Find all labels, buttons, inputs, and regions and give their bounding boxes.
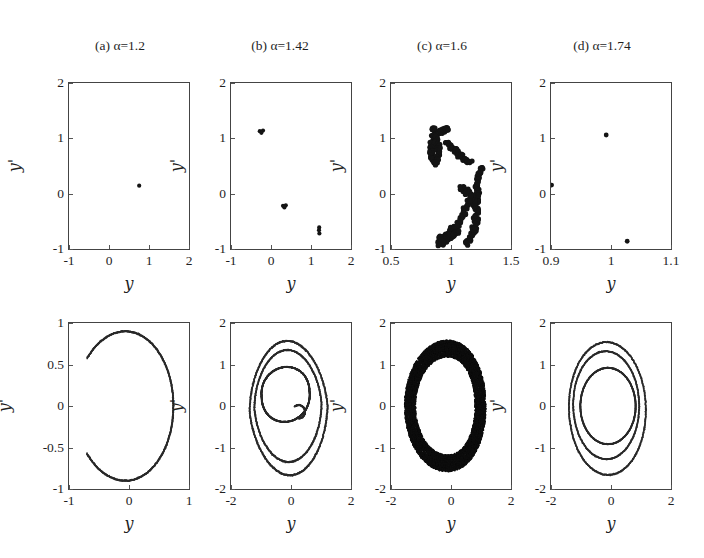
y-tick-label: -1 [506,441,546,455]
y-tick-label: 1 [186,358,226,372]
data-points-layer [551,83,671,249]
y-axis-label: y' [327,386,346,426]
x-tick-label: 1 [291,254,331,268]
y-tick [391,489,395,490]
plot-frame [550,82,672,250]
x-tick-label: 0 [109,494,149,508]
y-tick [391,323,395,324]
x-tick-label: 0 [89,254,129,268]
y-tick-label: 0 [506,399,546,413]
y-tick-label: 2 [186,76,226,90]
x-tick-label: 2 [651,494,691,508]
y-tick [69,194,73,195]
y-tick-label: -1 [346,242,386,256]
panel-title-b-text: (b) α=1.42 [251,38,308,53]
plot-panel-phase-d: -202-2-1012y'y [550,322,672,490]
x-axis-label: y [431,514,471,533]
y-tick [231,138,235,139]
x-tick-label: 1 [591,254,631,268]
x-tick-label: 0 [591,494,631,508]
y-tick-label: -1 [24,242,64,256]
y-tick [391,249,395,250]
x-tick-label: 0 [431,494,471,508]
y-tick [391,365,395,366]
x-tick [611,245,612,249]
y-tick [391,406,395,407]
y-tick [551,489,555,490]
x-axis-label: y [431,274,471,293]
y-tick [551,365,555,366]
y-tick [551,138,555,139]
x-tick [671,245,672,249]
y-tick [69,489,73,490]
plot-frame [550,322,672,490]
x-tick-label: 2 [169,254,209,268]
x-tick-label: 1 [431,254,471,268]
y-tick [391,83,395,84]
x-tick-label: 0.9 [531,254,571,268]
x-tick-label: 1 [129,254,169,268]
y-tick-label: 1 [506,358,546,372]
y-tick-label: 0 [24,187,64,201]
plot-panel-poincare-d: 0.911.1-1012y'y [550,82,672,250]
y-tick [69,365,73,366]
x-tick-label: 2 [491,494,531,508]
y-tick [231,249,235,250]
y-tick [551,323,555,324]
y-tick [231,365,235,366]
y-tick-label: 0 [346,399,386,413]
x-axis-label: y [271,514,311,533]
x-axis-label: y [271,274,311,293]
x-tick-label: -1 [211,254,251,268]
y-axis-label: y' [487,146,506,186]
y-tick-label: 0.5 [24,358,64,372]
y-tick [69,406,73,407]
y-tick [231,448,235,449]
y-tick-label: -1 [24,482,64,496]
y-tick-label: 1 [24,131,64,145]
y-tick [69,249,73,250]
y-axis-label: y' [167,386,186,426]
y-tick-label: 1 [186,131,226,145]
y-tick-label: 2 [24,76,64,90]
y-axis-label: y' [0,386,14,426]
y-tick-label: 1 [346,358,386,372]
x-tick [271,245,272,249]
panel-title-a-text: (a) α=1.2 [95,38,145,53]
x-tick [611,485,612,489]
y-tick-label: -1 [186,441,226,455]
x-tick-label: -2 [371,494,411,508]
x-axis-label: y [109,514,149,533]
y-tick [551,83,555,84]
x-axis-label: y [591,514,631,533]
x-tick-label: -2 [211,494,251,508]
y-tick [231,489,235,490]
y-tick-label: 2 [346,316,386,330]
y-tick [231,406,235,407]
x-tick-label: -2 [531,494,571,508]
x-axis-label: y [591,274,631,293]
y-tick [69,323,73,324]
y-tick [231,83,235,84]
y-tick-label: 1 [24,316,64,330]
x-tick [291,485,292,489]
y-tick-label: 0 [346,187,386,201]
y-tick [231,323,235,324]
x-tick [451,485,452,489]
y-tick-label: 2 [506,316,546,330]
x-tick [451,245,452,249]
y-tick [391,194,395,195]
y-tick [69,83,73,84]
panel-title-d: (d) α=1.74 [542,38,662,54]
y-tick-label: 1 [346,131,386,145]
y-axis-label: y' [167,146,186,186]
y-tick-label: 2 [506,76,546,90]
data-points-layer [551,323,671,489]
y-axis-label: y' [327,146,346,186]
x-tick-label: 2 [331,494,371,508]
y-tick [391,448,395,449]
x-tick-label: 0 [251,254,291,268]
panel-title-c-text: (c) α=1.6 [417,38,467,53]
y-tick [551,448,555,449]
panel-title-c: (c) α=1.6 [382,38,502,54]
